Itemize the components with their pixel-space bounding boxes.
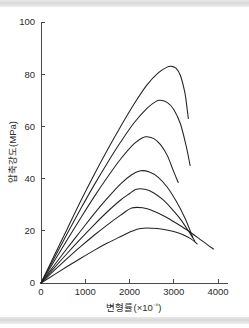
figure-root: 020406080100 01000200030004000 압축강도(MPa)… [0, 0, 249, 328]
x-axis-title: 변형률(×10⁻⁶) [106, 302, 161, 313]
x-tick-label: 1000 [75, 286, 96, 297]
x-axis-tick-labels: 01000200030004000 [38, 286, 228, 297]
x-tick-label: 4000 [207, 286, 228, 297]
y-tick-label: 0 [30, 277, 35, 288]
y-tick-label: 60 [24, 121, 35, 132]
x-tick-label: 0 [38, 286, 43, 297]
curve-2 [41, 100, 190, 283]
curve-6 [41, 207, 214, 283]
curve-group [41, 66, 214, 283]
y-tick-label: 40 [24, 173, 35, 184]
y-axis-ticks [41, 22, 45, 283]
curve-4 [41, 171, 193, 283]
y-axis-title: 압축강도(MPa) [7, 121, 18, 183]
y-tick-label: 100 [19, 16, 35, 27]
y-axis-tick-labels: 020406080100 [19, 16, 35, 288]
curve-7 [41, 228, 197, 283]
stress-strain-chart: 020406080100 01000200030004000 압축강도(MPa)… [0, 0, 249, 328]
curve-1 [41, 66, 188, 283]
y-tick-label: 80 [24, 69, 35, 80]
y-axis-title-group: 압축강도(MPa) [7, 121, 18, 183]
x-axis-title-group: 변형률(×10⁻⁶) [106, 302, 161, 313]
x-axis-ticks [41, 279, 218, 283]
x-tick-label: 3000 [163, 286, 184, 297]
axes [41, 22, 228, 283]
y-tick-label: 20 [24, 225, 35, 236]
x-tick-label: 2000 [119, 286, 140, 297]
